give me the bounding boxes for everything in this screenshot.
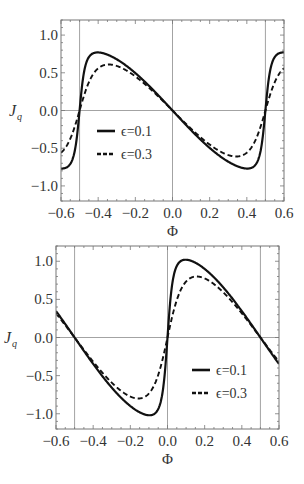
- y-tick-label: −1.0: [26, 406, 53, 422]
- y-tick-label: 0.0: [34, 330, 53, 346]
- x-tick-label: −0.2: [117, 433, 144, 449]
- legend-label-1: ϵ=0.1: [216, 363, 247, 378]
- x-axis-label: Φ: [162, 451, 173, 467]
- x-tick-label: 0.6: [270, 433, 289, 449]
- x-tick-label: −0.6: [42, 433, 70, 449]
- y-tick-label: −0.5: [26, 368, 53, 384]
- y-axis-label-subscript: q: [12, 338, 17, 349]
- x-tick-label: 0.0: [158, 433, 177, 449]
- legend-label-2: ϵ=0.3: [216, 386, 247, 401]
- y-tick-label: 0.5: [34, 291, 53, 307]
- x-tick-label: −0.4: [80, 433, 108, 449]
- chart-bottom: −0.6−0.4−0.20.00.20.40.6−1.0−0.50.00.51.…: [0, 0, 304, 484]
- y-tick-label: 1.0: [34, 253, 53, 269]
- plot-bottom: −0.6−0.4−0.20.00.20.40.6−1.0−0.50.00.51.…: [0, 0, 304, 484]
- y-axis-label: J: [4, 329, 12, 346]
- x-tick-label: 0.2: [195, 433, 214, 449]
- x-tick-label: 0.4: [232, 433, 251, 449]
